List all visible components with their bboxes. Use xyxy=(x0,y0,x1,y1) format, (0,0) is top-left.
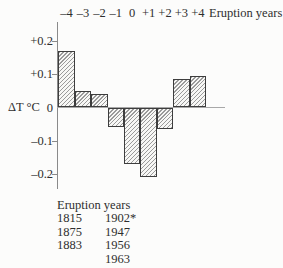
y-axis-tick-label: –0.2 xyxy=(31,167,53,180)
top-axis-tick-label: –2 xyxy=(93,6,106,20)
legend-year: 1963 xyxy=(105,253,136,267)
top-axis-title: Eruption years xyxy=(209,6,282,20)
legend-year: 1875 xyxy=(57,226,82,240)
legend-column-2: 1902*194719561963 xyxy=(105,212,136,266)
bar-+4 xyxy=(190,76,206,108)
top-axis-tick-label: +1 xyxy=(142,6,155,20)
bar--1 xyxy=(108,108,124,128)
top-axis-tick-label: +4 xyxy=(191,6,204,20)
bar--2 xyxy=(91,94,107,107)
y-axis-tick-label: +0.1 xyxy=(30,68,53,81)
bar-0 xyxy=(124,108,140,164)
y-axis-tick-label: 0 xyxy=(47,101,53,114)
legend-year: 1947 xyxy=(105,226,136,240)
legend-column-1: 181518751883 xyxy=(57,212,82,253)
y-axis-tick-label: +0.2 xyxy=(30,35,53,48)
top-axis-tick-label: –4 xyxy=(60,6,73,20)
top-axis-tick-label: +3 xyxy=(175,6,188,20)
top-axis-tick-label: –3 xyxy=(77,6,90,20)
bar-+1 xyxy=(140,108,156,178)
top-axis-tick-label: –1 xyxy=(110,6,123,20)
bar--4 xyxy=(58,51,74,107)
top-axis-tick-label: 0 xyxy=(129,6,135,20)
bar-+2 xyxy=(157,108,173,130)
bar-+3 xyxy=(173,79,189,107)
top-axis-tick-label: +2 xyxy=(158,6,171,20)
bar--3 xyxy=(75,91,91,108)
y-axis-title: ΔT °C xyxy=(8,100,40,115)
legend-year: 1956 xyxy=(105,239,136,253)
legend-year: 1883 xyxy=(57,239,82,253)
eruption-temperature-figure: –4–3–2–10+1+2+3+4 Eruption years +0.2+0.… xyxy=(0,0,283,268)
y-axis-tick-label: –0.1 xyxy=(31,134,53,147)
legend-year: 1815 xyxy=(57,212,82,226)
legend-year: 1902* xyxy=(105,212,136,226)
